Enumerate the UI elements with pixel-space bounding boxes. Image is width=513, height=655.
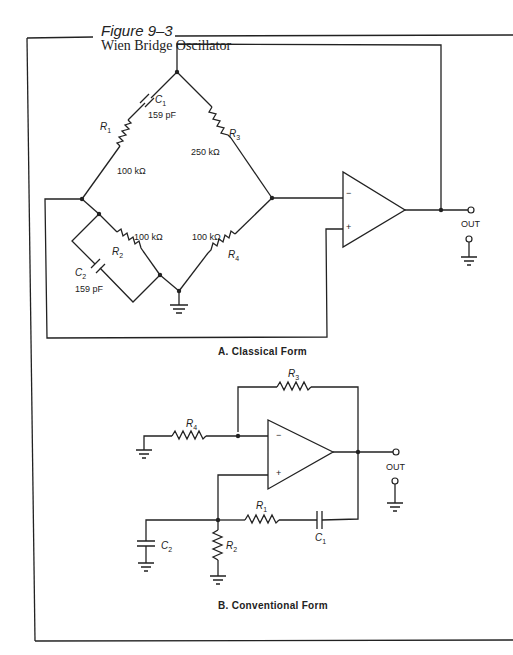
r3-resistor (209, 107, 231, 138)
r4-value: 100 kΩ (192, 232, 221, 242)
output-terminal (393, 449, 399, 455)
r1-value: 100 kΩ (117, 166, 146, 176)
output-return-terminal (392, 478, 398, 484)
c1-ref: C1 (155, 94, 166, 107)
output-return-terminal (466, 236, 472, 242)
ground-icon (136, 450, 152, 458)
figure-title: Wien Bridge Oscillator (101, 38, 231, 54)
schematic-drawing (0, 0, 513, 655)
output-label-b: OUT (386, 462, 405, 472)
r1-ref-b: R1 (256, 500, 267, 513)
opamp-plus-label-b: + (276, 468, 281, 478)
caption-classical: A. Classical Form (218, 346, 307, 357)
output-terminal (468, 207, 474, 213)
r2-value: 100 kΩ (134, 232, 163, 242)
figure-panel: Figure 9–3 Wien Bridge Oscillator C1 159… (0, 0, 513, 655)
r3-ref: R3 (229, 128, 240, 141)
c1-value: 159 pF (148, 110, 176, 120)
caption-conventional: B. Conventional Form (218, 600, 328, 611)
r4-resistor (172, 431, 206, 439)
r3-resistor (277, 382, 311, 390)
r1-resistor (245, 515, 279, 523)
r2-ref-b: R2 (226, 540, 237, 553)
ground-icon (461, 257, 477, 265)
ground-icon (170, 305, 188, 313)
r4-ref: R4 (228, 249, 239, 262)
opamp-plus-label: + (346, 222, 351, 232)
r2-ref: R2 (112, 246, 123, 259)
c2-ref: C2 (75, 267, 86, 280)
c1-ref-b: C1 (315, 532, 326, 545)
ground-icon (210, 576, 226, 584)
c2-capacitor (137, 541, 155, 546)
r3-ref-b: R3 (288, 368, 299, 381)
classical-opamp (343, 172, 477, 265)
r4-ref-b: R4 (186, 418, 197, 431)
c2-value: 159 pF (75, 284, 103, 294)
r1-resistor (117, 120, 131, 146)
r2-resistor (213, 530, 222, 560)
figure-number: Figure 9–3 (101, 22, 173, 39)
output-label: OUT (461, 219, 480, 229)
r1-ref: R1 (100, 121, 111, 134)
c2-ref-b: C2 (161, 540, 172, 553)
r3-value: 250 kΩ (191, 147, 220, 157)
classical-bridge (45, 44, 441, 338)
opamp-minus-label: − (346, 188, 351, 198)
opamp-minus-label-b: − (276, 430, 281, 440)
ground-icon (138, 563, 154, 571)
ground-icon (387, 503, 403, 511)
conventional-circuit (136, 382, 403, 584)
c1-capacitor (317, 511, 322, 529)
